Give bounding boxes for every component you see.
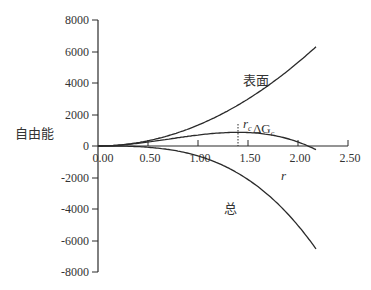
delta-g-curve bbox=[98, 132, 316, 149]
delta-g-label: ΔGc bbox=[253, 121, 275, 138]
total-label: 总 bbox=[224, 201, 237, 216]
rc-subscript: c bbox=[248, 124, 252, 133]
surface-curve bbox=[98, 47, 316, 146]
y-ticks bbox=[92, 20, 98, 272]
free-energy-chart: 8000 6000 4000 2000 0 -2000 -4000 -6000 … bbox=[0, 0, 371, 290]
x-tick-label: 0.00 bbox=[93, 151, 114, 165]
x-tick-label: 1.00 bbox=[190, 151, 211, 165]
y-tick-label: 4000 bbox=[65, 76, 89, 90]
delta-g-subscript: c bbox=[271, 129, 275, 138]
x-tick-label: 1.50 bbox=[240, 151, 261, 165]
y-tick-label: -8000 bbox=[61, 265, 89, 279]
y-tick-labels: 8000 6000 4000 2000 0 -2000 -4000 -6000 … bbox=[61, 13, 89, 279]
critical-radius-label: rc bbox=[243, 116, 252, 133]
x-tick-label: 0.50 bbox=[140, 151, 161, 165]
y-tick-label: -4000 bbox=[61, 202, 89, 216]
x-axis-label: r bbox=[281, 168, 287, 183]
y-tick-label: -2000 bbox=[61, 171, 89, 185]
x-tick-labels: 0.00 0.50 1.00 1.50 2.00 2.50 bbox=[93, 151, 361, 165]
y-tick-label: 8000 bbox=[65, 13, 89, 27]
y-axis-label: 自由能 bbox=[15, 126, 54, 141]
y-tick-label: -6000 bbox=[61, 234, 89, 248]
x-tick-label: 2.50 bbox=[340, 151, 361, 165]
x-ticks bbox=[148, 140, 348, 146]
y-tick-label: 0 bbox=[83, 139, 89, 153]
x-tick-label: 2.00 bbox=[290, 151, 311, 165]
y-tick-label: 2000 bbox=[65, 108, 89, 122]
y-tick-label: 6000 bbox=[65, 45, 89, 59]
surface-label: 表面 bbox=[243, 73, 269, 88]
delta-g-symbol: ΔG bbox=[253, 121, 271, 136]
